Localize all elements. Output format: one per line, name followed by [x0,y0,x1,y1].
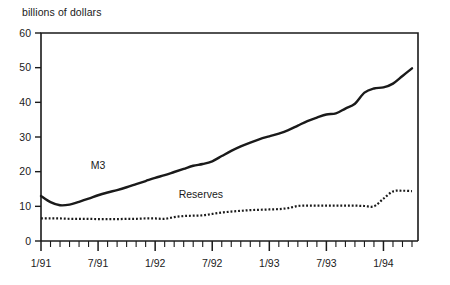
plot-frame [41,33,418,241]
x-tick-label: 1/93 [259,257,280,269]
x-tick-label: 7/91 [88,257,109,269]
x-tick-label: 1/91 [31,257,52,269]
y-axis-ticks [35,33,41,241]
series-line-m3 [41,68,412,205]
x-axis-tick-labels: 1/917/911/927/921/937/931/94 [31,257,394,269]
data-series-group [41,68,412,219]
y-tick-label: 40 [19,96,31,108]
y-tick-label: 0 [25,235,31,247]
y-tick-label: 30 [19,131,31,143]
x-tick-label: 1/94 [373,257,394,269]
x-tick-label: 1/92 [145,257,166,269]
chart-figure: billions of dollars 0102030405060 1/917/… [0,0,450,285]
y-axis-tick-labels: 0102030405060 [19,27,31,247]
m3-label: M3 [91,159,106,171]
y-axis-title: billions of dollars [22,6,102,18]
x-tick-label: 7/93 [316,257,337,269]
y-tick-label: 50 [19,61,31,73]
line-chart-plot: 0102030405060 1/917/911/927/921/937/931/… [0,0,450,285]
y-tick-label: 10 [19,200,31,212]
reserves-label: Reserves [179,188,223,200]
x-axis-ticks [41,241,412,251]
x-tick-label: 7/92 [202,257,223,269]
y-tick-label: 60 [19,27,31,39]
y-tick-label: 20 [19,165,31,177]
